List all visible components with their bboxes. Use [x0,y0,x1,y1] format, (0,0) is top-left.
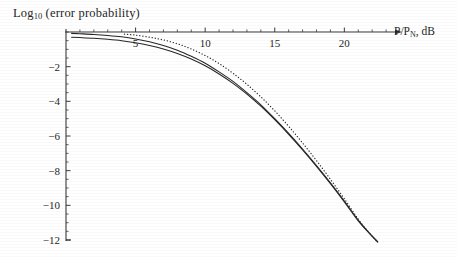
x-axis-label-base: P/P [394,25,410,37]
chart-title: Log10 (error probability) [13,7,140,20]
y-tick-label: −12 [36,235,60,246]
x-tick-label: 20 [339,38,350,49]
x-tick-label: 5 [133,38,139,49]
x-tick-label: 15 [269,38,280,49]
x-axis-label-subscript: N [410,30,416,39]
y-tick-label: −8 [36,165,60,176]
x-axis-label-rest: , dB [416,25,435,37]
chart-title-rest: (error probability) [42,6,140,20]
figure-container: Log10 (error probability) P/PN, dB 51015… [0,0,457,257]
series-line-1 [72,37,378,242]
series-line-2 [124,34,376,241]
x-tick-label: 10 [200,38,211,49]
series-group [72,33,378,242]
x-axis-label: P/PN, dB [394,26,435,38]
chart-title-subscript: 10 [34,11,43,21]
plot-canvas [0,0,457,257]
chart-title-base: Log [13,6,34,20]
series-line-0 [72,33,378,241]
y-tick-label: −4 [36,96,60,107]
y-tick-label: −10 [36,200,60,211]
y-tick-label: −2 [36,61,60,72]
y-tick-label: −6 [36,131,60,142]
